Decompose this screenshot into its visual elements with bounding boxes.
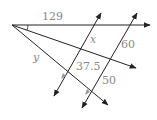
label-129: 129: [42, 10, 63, 23]
parallel-marker-left-icon: [61, 73, 66, 79]
label-y: y: [32, 51, 40, 64]
label-x: x: [90, 33, 97, 46]
angle-arc: [27, 25, 28, 30]
label-50: 50: [102, 74, 116, 87]
label-60: 60: [121, 38, 135, 51]
label-37-5: 37.5: [76, 60, 101, 73]
geometry-diagram: 129 x 60 y 37.5 50: [0, 0, 157, 120]
